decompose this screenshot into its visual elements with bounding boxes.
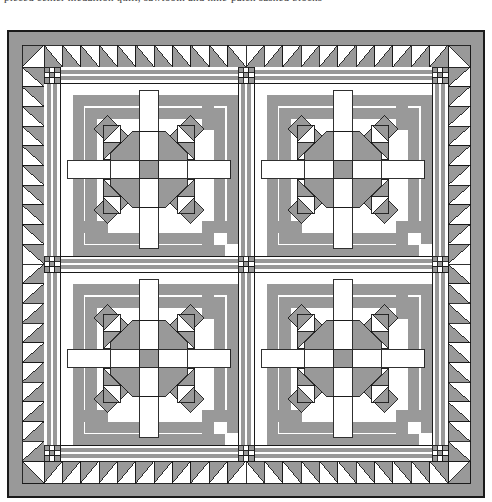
sashing-cornerstone-cell [238, 450, 243, 455]
block-arm [139, 208, 158, 249]
sashing-cornerstone-cell [437, 267, 442, 272]
block-corner-bar [267, 221, 278, 256]
sashing-cornerstone-cell [44, 78, 49, 83]
sashing-cornerstone-cell [243, 78, 248, 83]
block-center-square [333, 349, 352, 368]
block-arm [262, 349, 305, 368]
sashing-cornerstone-cell [49, 261, 54, 266]
block-corner-bar [73, 95, 84, 130]
sashing-cornerstone-cell [44, 456, 49, 461]
block-arm [381, 349, 424, 368]
sashing-cornerstone-cell [55, 261, 60, 266]
sashing-cornerstone-cell [49, 256, 54, 261]
caption-text: pieced center medallion quilt, sawtooth … [4, 0, 322, 3]
sashing-cornerstone-cell [249, 450, 254, 455]
sashing-cornerstone-cell [249, 256, 254, 261]
caption-strip: pieced center medallion quilt, sawtooth … [0, 0, 492, 14]
quilt-block [60, 272, 238, 445]
block-center-square [139, 349, 158, 368]
sashing-cornerstone-cell [238, 256, 243, 261]
sashing-cornerstone-cell [243, 67, 248, 72]
block-center-square [139, 160, 158, 179]
sashing-cornerstone-cell [55, 72, 60, 77]
block-arm [333, 279, 352, 320]
sashing-cornerstone-cell [249, 267, 254, 272]
block-arm [381, 160, 424, 179]
quilt-block [254, 83, 432, 256]
sashing-cornerstone-cell [238, 67, 243, 72]
sashing-cornerstone-cell [432, 445, 437, 450]
sashing-cornerstone-cell [249, 72, 254, 77]
sashing-cornerstone-cell [55, 256, 60, 261]
quilt-figure: Four-block medallion quilt with sawtooth… [0, 14, 492, 502]
sashing-cornerstone-cell [49, 78, 54, 83]
sashing-cornerstone-cell [437, 72, 442, 77]
sashing-cornerstone-cell [243, 256, 248, 261]
quilt-block [254, 272, 432, 445]
block-corner-bar [202, 284, 213, 319]
block-corner-bar [396, 95, 407, 130]
sashing-cornerstone-cell [49, 445, 54, 450]
sashing-cornerstone-cell [44, 267, 49, 272]
outer-border-bottom [8, 483, 484, 497]
quilt-diagram: Four-block medallion quilt with sawtooth… [0, 14, 492, 502]
sashing-cornerstone-cell [437, 78, 442, 83]
sashing-cornerstone-cell [432, 456, 437, 461]
sashing-cornerstone-cell [49, 72, 54, 77]
sashing-cornerstone-cell [437, 67, 442, 72]
sashing-cornerstone-cell [44, 445, 49, 450]
sashing-cornerstone-cell [243, 445, 248, 450]
block-arm [187, 349, 230, 368]
quilt-interior [44, 67, 448, 461]
block-arm [68, 349, 111, 368]
block-corner-bar [396, 410, 407, 445]
sashing-cornerstone-cell [49, 456, 54, 461]
sashing-cornerstone-cell [44, 261, 49, 266]
sashing-cornerstone-cell [443, 456, 448, 461]
sashing-cornerstone-cell [55, 450, 60, 455]
sashing-cornerstone-cell [44, 256, 49, 261]
sashing-cornerstone-cell [432, 67, 437, 72]
block-corner-bar [396, 284, 407, 319]
block-arm [262, 160, 305, 179]
outer-border-right [470, 31, 484, 497]
sashing-cornerstone-cell [432, 450, 437, 455]
quilt-root [8, 31, 484, 497]
block-corner-bar [202, 95, 213, 130]
sashing-cornerstone-cell [243, 72, 248, 77]
block-corner-bar [267, 95, 278, 130]
block-center-square [333, 160, 352, 179]
sashing-cornerstone-cell [443, 67, 448, 72]
sashing-cornerstone-cell [443, 78, 448, 83]
sashing-cornerstone-cell [44, 67, 49, 72]
sashing-cornerstone-cell [437, 456, 442, 461]
sashing-cornerstone-cell [443, 450, 448, 455]
sashing-cornerstone-cell [249, 78, 254, 83]
sashing-cornerstone-cell [49, 67, 54, 72]
sashing-cornerstone-cell [49, 450, 54, 455]
block-corner-bar [267, 284, 278, 319]
block-corner-bar [202, 221, 213, 256]
sashing-cornerstone-cell [44, 450, 49, 455]
block-arm [333, 397, 352, 438]
sashing-cornerstone-cell [443, 445, 448, 450]
sashing-cornerstone-cell [243, 450, 248, 455]
sashing-cornerstone-cell [238, 445, 243, 450]
block-arm [68, 160, 111, 179]
sashing-cornerstone-cell [238, 72, 243, 77]
block-arm [139, 90, 158, 131]
block-corner-bar [73, 284, 84, 319]
block-arm [187, 160, 230, 179]
sashing-cornerstone-cell [432, 72, 437, 77]
sashing-cornerstone-cell [432, 256, 437, 261]
block-corner-bar [396, 221, 407, 256]
outer-border-top [8, 31, 484, 45]
sashing-cornerstone-cell [437, 261, 442, 266]
sashing-cornerstone-cell [443, 261, 448, 266]
sashing-cornerstone-cell [238, 78, 243, 83]
block-corner-bar [73, 410, 84, 445]
sashing-cornerstone-cell [55, 67, 60, 72]
sashing-cornerstone-cell [432, 78, 437, 83]
sashing-cornerstone-cell [432, 267, 437, 272]
sashing-cornerstone-cell [249, 261, 254, 266]
